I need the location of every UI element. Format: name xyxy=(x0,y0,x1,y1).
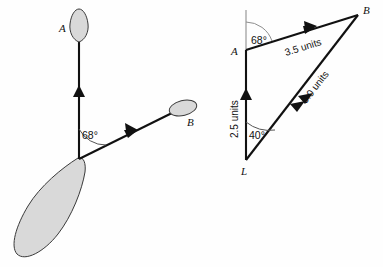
leaf-a-shape xyxy=(70,9,88,42)
label-b-left: B xyxy=(187,116,194,128)
vertex-label-b: B xyxy=(363,4,370,16)
leaf-b-shape xyxy=(168,97,199,118)
vector-b-arrowhead-2 xyxy=(125,123,138,131)
figure-root: A B 68° 68° 2.5 units 3.5 units 5.0 u xyxy=(0,0,383,267)
edge-a-b-label: 3.5 units xyxy=(283,36,322,58)
vector-diagram-canvas: A B 68° 68° 2.5 units 3.5 units 5.0 u xyxy=(0,0,383,267)
edge-l-a-label: 2.5 units xyxy=(229,100,240,138)
left-plant-diagram: A B 68° xyxy=(14,9,198,257)
angle-label-l: 40° xyxy=(249,129,265,141)
vertex-label-a: A xyxy=(230,45,238,57)
vector-a-arrowhead xyxy=(73,85,85,97)
right-triangle-diagram: 68° 2.5 units 3.5 units 5.0 units 40° A … xyxy=(229,4,370,177)
label-a-left: A xyxy=(58,22,66,34)
basal-leaf-shape xyxy=(14,158,85,257)
edge-l-a-arrowhead xyxy=(240,88,252,100)
vertex-label-l: L xyxy=(240,165,247,177)
angle-label-left: 68° xyxy=(82,129,98,141)
